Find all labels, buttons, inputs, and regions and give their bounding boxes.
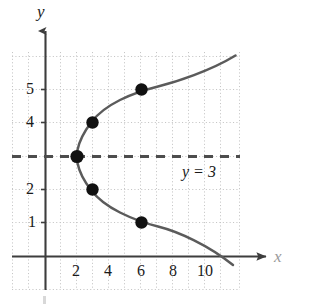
scan-artifact xyxy=(43,296,46,304)
data-point-6-1 xyxy=(135,216,147,228)
reference-line-label: y = 3 xyxy=(182,163,216,181)
y-axis-label: y xyxy=(37,2,45,22)
data-point-3-4 xyxy=(86,116,98,128)
x-tick-label-4: 4 xyxy=(104,262,112,280)
y-tick-label-1: 1 xyxy=(28,213,36,231)
y-tick-label-4: 4 xyxy=(26,113,34,131)
x-tick-label-8: 8 xyxy=(169,262,177,280)
y-tick-label-2: 2 xyxy=(26,180,34,198)
x-tick-label-10: 10 xyxy=(197,262,213,280)
data-point-3-2 xyxy=(86,183,98,195)
y-tick-label-5: 5 xyxy=(26,80,34,98)
x-axis-label: x xyxy=(274,247,282,267)
data-point-6-5 xyxy=(135,83,147,95)
x-tick-label-2: 2 xyxy=(72,262,80,280)
x-tick-label-6: 6 xyxy=(137,262,145,280)
parabola-curve xyxy=(77,56,236,266)
data-point-2-3 xyxy=(70,150,83,163)
